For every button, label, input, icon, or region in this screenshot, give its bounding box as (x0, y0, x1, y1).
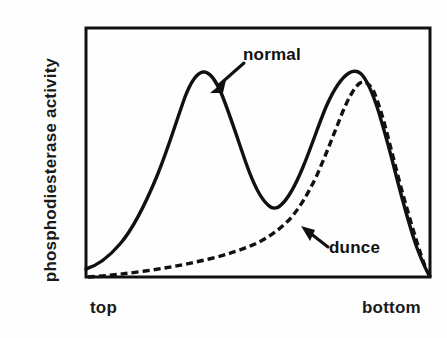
arrow-dunce (301, 226, 328, 247)
figure-container: phosphodiesterase activity top bottom no… (0, 0, 447, 338)
series-label-dunce: dunce (329, 238, 380, 258)
series-label-normal: normal (243, 45, 301, 65)
arrow-normal (210, 63, 244, 93)
plot-area (0, 0, 447, 338)
x-tick-label-top: top (90, 298, 117, 318)
y-axis-label: phosphodiesterase activity (41, 45, 61, 295)
x-tick-label-bottom: bottom (362, 298, 421, 318)
